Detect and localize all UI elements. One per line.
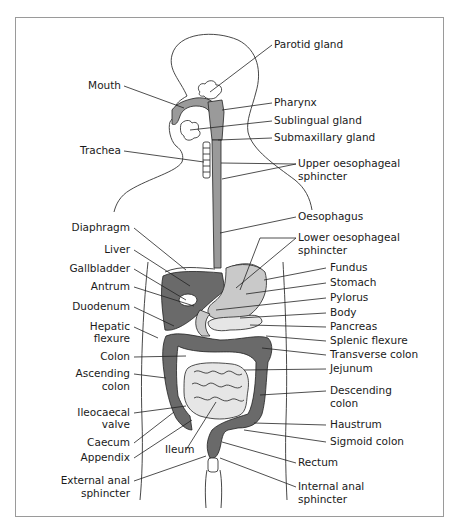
digestive-system-diagram: Mouth Trachea Diaphragm Liver Gallbladde… [0,0,452,527]
label-jejunum: Jejunum [329,362,373,374]
label-pylorus: Pylorus [330,291,368,303]
label-mouth: Mouth [88,79,121,91]
label-ileocaecal-valve-line2: valve [102,418,130,430]
labels-right: Parotid gland Pharynx Sublingual gland S… [274,38,418,505]
label-liver: Liver [104,243,130,255]
leg-inner-right [220,470,222,508]
label-submaxillary-gland: Submaxillary gland [274,131,375,143]
label-ascending-colon-line2: colon [102,380,130,392]
label-body: Body [330,306,357,318]
leg-inner-left [205,470,207,508]
label-upper-oesophageal-sphincter-line2: sphincter [298,170,348,182]
anal-canal-shape [208,458,218,472]
label-hepatic-flexure-line2: flexure [94,332,130,344]
label-internal-anal-sphincter-line1: Internal anal [298,480,364,492]
label-colon: Colon [100,350,130,362]
label-parotid-gland: Parotid gland [274,38,343,50]
label-rectum: Rectum [298,456,338,468]
label-appendix: Appendix [81,451,130,463]
label-sigmoid-colon: Sigmoid colon [330,435,404,447]
torso-right-outline [283,262,287,500]
label-transverse-colon: Transverse colon [329,348,418,360]
label-caecum: Caecum [87,436,130,448]
label-internal-anal-sphincter-line2: sphincter [298,493,348,505]
small-intestine-shape [184,363,248,419]
label-stomach: Stomach [330,276,376,288]
label-lower-oesophageal-sphincter-line2: sphincter [298,244,348,256]
labels-left: Mouth Trachea Diaphragm Liver Gallbladde… [61,79,131,499]
label-diaphragm: Diaphragm [72,221,130,233]
label-descending-colon-line2: colon [330,397,358,409]
label-descending-colon-line1: Descending [330,384,392,396]
trachea [203,142,210,178]
label-pancreas: Pancreas [330,320,377,332]
parotid-gland-shape [198,81,221,99]
label-hepatic-flexure-line1: Hepatic [90,320,130,332]
label-upper-oesophageal-sphincter-line1: Upper oesophageal [298,157,400,169]
leader-lines [124,45,326,487]
label-haustrum: Haustrum [330,418,382,430]
label-external-anal-sphincter-line1: External anal [61,474,130,486]
label-splenic-flexure: Splenic flexure [330,334,408,346]
oral-cavity [172,81,224,140]
label-antrum: Antrum [91,280,130,292]
label-oesophagus: Oesophagus [298,210,363,222]
label-ascending-colon-line1: Ascending [76,367,130,379]
torso-left-outline [140,262,148,500]
label-sublingual-gland: Sublingual gland [274,114,362,126]
label-external-anal-sphincter-line2: sphincter [81,487,131,499]
label-trachea: Trachea [79,144,121,156]
label-duodenum: Duodenum [72,300,130,312]
label-ileum: Ileum [165,443,194,455]
label-gallbladder: Gallbladder [69,262,130,274]
label-fundus: Fundus [330,261,368,273]
oesophagus-shape [212,140,221,268]
label-pharynx: Pharynx [274,96,317,108]
label-lower-oesophageal-sphincter-line1: Lower oesophageal [298,231,400,243]
pharynx-shape [208,100,224,140]
label-ileocaecal-valve-line1: Ileocaecal [77,406,130,418]
